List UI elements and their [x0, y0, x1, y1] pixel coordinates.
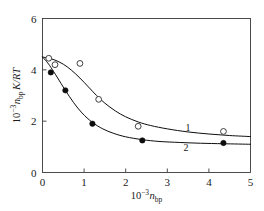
data-point-filled-2-4 [221, 140, 226, 145]
data-point-open-1-0 [46, 55, 52, 61]
x-axis-title: 10−3nbp [131, 188, 163, 204]
data-point-open-1-1 [52, 62, 58, 68]
data-point-filled-2-3 [140, 138, 145, 143]
x-tick-label-4: 4 [206, 176, 212, 188]
data-point-filled-2-0 [48, 70, 53, 75]
y-axis-title: 10−3nbpK/RT [9, 67, 25, 124]
y-tick-label-2: 4 [31, 64, 37, 76]
curve-2 [43, 57, 251, 144]
plot-frame [43, 19, 251, 173]
data-point-open-1-5 [221, 129, 227, 135]
data-point-open-1-3 [96, 96, 102, 102]
chart-canvas: 01234502461210−3nbp10−3nbpK/RT [0, 0, 264, 211]
curve-1 [43, 57, 251, 137]
x-tick-label-1: 1 [81, 176, 87, 188]
x-tick-label-2: 2 [123, 176, 129, 188]
data-point-filled-2-2 [90, 121, 95, 126]
curve-label-1: 1 [186, 122, 191, 133]
data-point-open-1-4 [135, 123, 141, 129]
y-tick-label-0: 0 [31, 167, 37, 179]
y-tick-label-1: 2 [31, 115, 37, 127]
data-point-open-1-2 [77, 61, 83, 67]
x-tick-label-3: 3 [165, 176, 171, 188]
chart-figure: 01234502461210−3nbp10−3nbpK/RT [0, 0, 264, 211]
curve-label-2: 2 [184, 142, 189, 153]
data-point-filled-2-1 [63, 88, 68, 93]
y-tick-label-3: 6 [31, 13, 37, 25]
x-tick-label-0: 0 [40, 176, 46, 188]
x-tick-label-5: 5 [248, 176, 254, 188]
